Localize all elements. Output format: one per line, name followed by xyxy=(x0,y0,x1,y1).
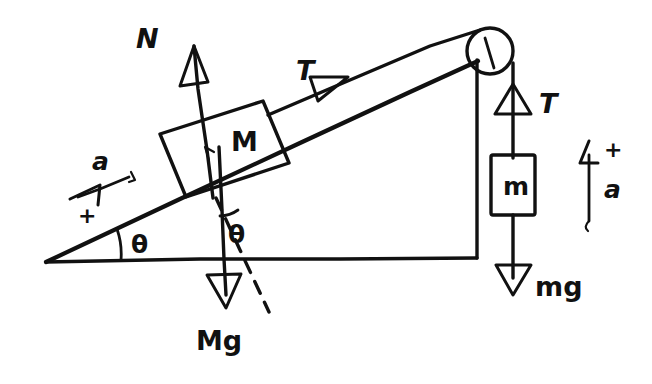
weight-mg-vector: mg xyxy=(496,215,582,302)
block-M-label: M xyxy=(231,126,258,157)
weight-angle-label: θ xyxy=(228,220,245,249)
tension-incline-label: T xyxy=(296,55,317,86)
block-m-label: m xyxy=(503,172,529,201)
acceleration-hanging-reference: + a xyxy=(580,137,622,231)
free-body-diagram: θ M N Mg θ T T xyxy=(0,0,652,384)
incline-surface-line xyxy=(46,61,478,262)
acceleration-incline-line xyxy=(78,177,129,197)
base-angle-label: θ xyxy=(131,230,148,259)
base-angle-marker: θ xyxy=(117,229,148,260)
pulley-icon xyxy=(467,28,513,74)
weight-Mg-label: Mg xyxy=(196,325,242,356)
acceleration-incline-reference: a + xyxy=(70,147,135,228)
tension-hanging-label: T xyxy=(539,88,560,119)
acceleration-hanging-label: a xyxy=(604,175,621,204)
incline-base-line xyxy=(46,258,477,262)
acceleration-hanging-tail-curl-icon xyxy=(586,221,589,231)
physics-diagram-canvas: θ M N Mg θ T T xyxy=(0,0,652,384)
weight-mg-label: mg xyxy=(535,271,582,302)
normal-force-label: N xyxy=(136,23,159,54)
acceleration-hanging-sign-label: + xyxy=(604,137,622,162)
rope-vertical-segment: T xyxy=(495,63,560,158)
weight-Mg-vector: Mg xyxy=(196,147,242,356)
acceleration-incline-label: a xyxy=(92,147,109,176)
incline-triangle xyxy=(46,60,478,262)
base-angle-arc xyxy=(117,229,121,260)
pulley-axle-line xyxy=(485,38,494,68)
block-m: m xyxy=(491,155,535,215)
acceleration-incline-sign-label: + xyxy=(78,203,96,228)
